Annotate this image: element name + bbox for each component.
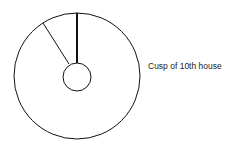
cusp-label: Cusp of 10th house xyxy=(148,61,222,71)
inner-circle xyxy=(63,63,91,91)
chart-wheel-diagram xyxy=(0,0,242,149)
house-division-line xyxy=(43,23,69,64)
